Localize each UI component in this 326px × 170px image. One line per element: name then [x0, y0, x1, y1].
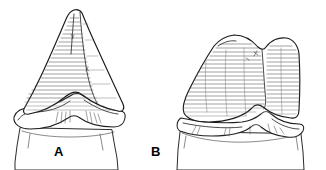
panel-label-a: A [54, 145, 64, 158]
specimen-a-group [14, 10, 125, 170]
specimen-b-crown [183, 35, 300, 122]
specimen-b-root [177, 132, 304, 170]
tooth-specimens-illustration [0, 0, 326, 170]
specimen-b-group [177, 35, 304, 170]
panel-label-b: B [151, 145, 161, 158]
figure-container: A B [0, 0, 326, 170]
specimen-a-root [15, 128, 118, 170]
